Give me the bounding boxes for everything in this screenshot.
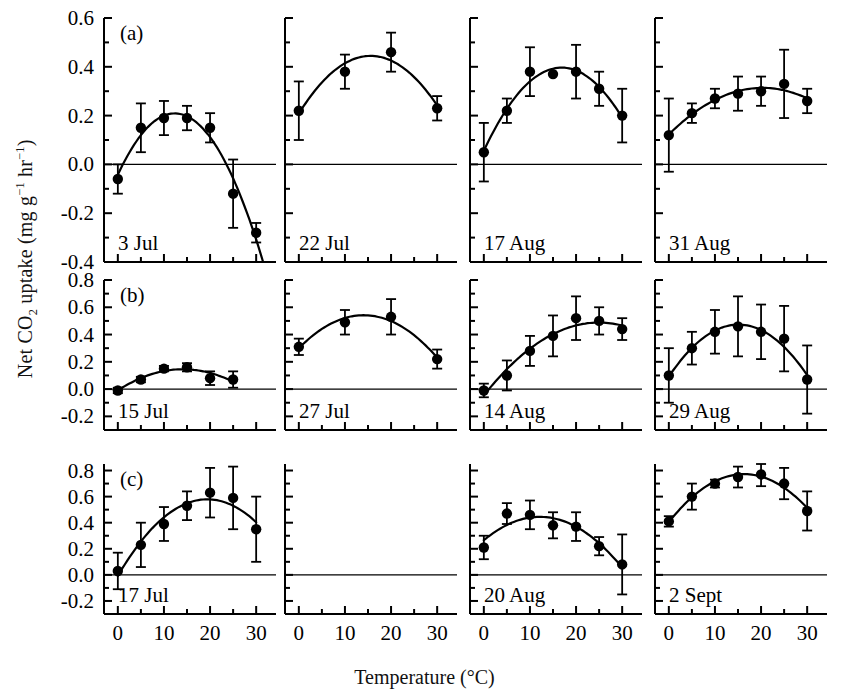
x-tick-label: 10 (704, 621, 725, 645)
y-tick-label: 0.6 (68, 485, 94, 509)
data-point (205, 373, 215, 383)
y-tick-label: 0.2 (68, 537, 94, 561)
data-point (571, 313, 581, 323)
y-tick-label: 0.8 (68, 268, 94, 292)
data-point (251, 228, 261, 238)
data-point (687, 108, 697, 118)
panel-date-label: 22 Jul (299, 231, 350, 255)
data-point (756, 469, 766, 479)
panel-date-label: 17 Aug (484, 231, 546, 255)
y-tick-label: 0.4 (68, 511, 95, 535)
fit-curve (118, 369, 233, 390)
data-point (756, 86, 766, 96)
data-point (386, 312, 396, 322)
data-point (802, 374, 812, 384)
data-point (756, 327, 766, 337)
data-point (113, 385, 123, 395)
data-point (594, 541, 604, 551)
x-tick-label: 10 (334, 621, 355, 645)
x-tick-label: 20 (751, 621, 772, 645)
data-point (687, 491, 697, 501)
row-label: (c) (120, 467, 143, 491)
data-point (779, 333, 789, 343)
row-label: (a) (120, 21, 143, 45)
data-point (159, 363, 169, 373)
y-tick-label: -0.2 (61, 201, 94, 225)
x-tick-label: 20 (381, 621, 402, 645)
data-point (228, 188, 238, 198)
data-point (548, 331, 558, 341)
data-point (479, 147, 489, 157)
data-point (251, 524, 261, 534)
data-point (340, 66, 350, 76)
data-point (571, 66, 581, 76)
panel-date-label: 3 Jul (118, 231, 158, 255)
data-point (182, 501, 192, 511)
data-point (205, 487, 215, 497)
data-point (182, 362, 192, 372)
panel-date-label: 17 Jul (118, 583, 169, 607)
panel-date-label: 27 Jul (299, 399, 350, 423)
data-point (294, 342, 304, 352)
fit-curve (299, 315, 437, 358)
panel-date-label: 20 Aug (484, 583, 546, 607)
data-point (502, 106, 512, 116)
y-axis-label: Net CO2 uptake (mg g−1 hr−1) (13, 29, 41, 489)
x-tick-label: 30 (612, 621, 633, 645)
data-point (502, 508, 512, 518)
x-tick-label: 20 (566, 621, 587, 645)
x-tick-label: 30 (427, 621, 448, 645)
y-tick-label: 0.6 (68, 295, 94, 319)
figure-panel-grid: -0.4-0.20.00.20.40.6(a)3 Jul22 Jul17 Aug… (0, 0, 849, 696)
data-point (617, 324, 627, 334)
data-point (710, 327, 720, 337)
panel-date-label: 29 Aug (669, 399, 731, 423)
panel-date-label: 15 Jul (118, 399, 169, 423)
data-point (594, 84, 604, 94)
y-tick-label: 0.0 (68, 563, 94, 587)
data-point (386, 47, 396, 57)
data-point (664, 516, 674, 526)
data-point (113, 174, 123, 184)
data-point (136, 123, 146, 133)
data-point (687, 343, 697, 353)
data-point (594, 316, 604, 326)
y-tick-label: 0.6 (68, 6, 94, 30)
data-point (617, 559, 627, 569)
data-point (136, 540, 146, 550)
y-tick-label: 0.4 (68, 55, 95, 79)
data-point (340, 317, 350, 327)
x-tick-label: 20 (200, 621, 221, 645)
data-point (525, 66, 535, 76)
y-tick-label: -0.2 (61, 589, 94, 613)
x-tick-label: 0 (294, 621, 305, 645)
data-point (548, 69, 558, 79)
data-point (159, 519, 169, 529)
x-tick-label: 30 (797, 621, 818, 645)
y-tick-label: 0.0 (68, 152, 94, 176)
data-point (779, 79, 789, 89)
y-tick-label: 0.0 (68, 377, 94, 401)
data-point (710, 478, 720, 488)
panel-date-label: 2 Sept (669, 583, 722, 607)
x-tick-label: 10 (519, 621, 540, 645)
data-point (779, 478, 789, 488)
data-point (733, 88, 743, 98)
data-point (664, 130, 674, 140)
data-point (525, 510, 535, 520)
x-tick-label: 10 (153, 621, 174, 645)
data-point (136, 374, 146, 384)
y-tick-label: 0.8 (68, 459, 94, 483)
y-tick-label: -0.2 (61, 404, 94, 428)
x-tick-label: 0 (664, 621, 675, 645)
data-point (479, 542, 489, 552)
x-axis-label: Temperature (°C) (0, 666, 849, 689)
y-tick-label: 0.2 (68, 350, 94, 374)
data-point (113, 566, 123, 576)
data-point (205, 123, 215, 133)
data-point (664, 370, 674, 380)
data-point (548, 520, 558, 530)
x-tick-label: 0 (113, 621, 124, 645)
data-point (182, 113, 192, 123)
data-point (617, 110, 627, 120)
